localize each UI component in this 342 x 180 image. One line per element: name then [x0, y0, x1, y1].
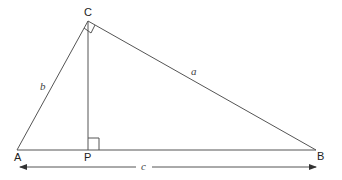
vertex-label-b: B [317, 150, 324, 162]
side-b [17, 21, 88, 150]
vertex-label-p: P [84, 151, 91, 163]
side-a [88, 21, 316, 150]
side-label-b: b [40, 80, 46, 92]
side-label-c: c [141, 160, 146, 172]
vertex-label-a: A [14, 151, 22, 163]
right-angle-marker-p [88, 138, 99, 150]
side-label-a: a [191, 65, 197, 77]
vertex-label-c: C [84, 6, 92, 18]
triangle-diagram: C A P B b a c [0, 0, 342, 180]
